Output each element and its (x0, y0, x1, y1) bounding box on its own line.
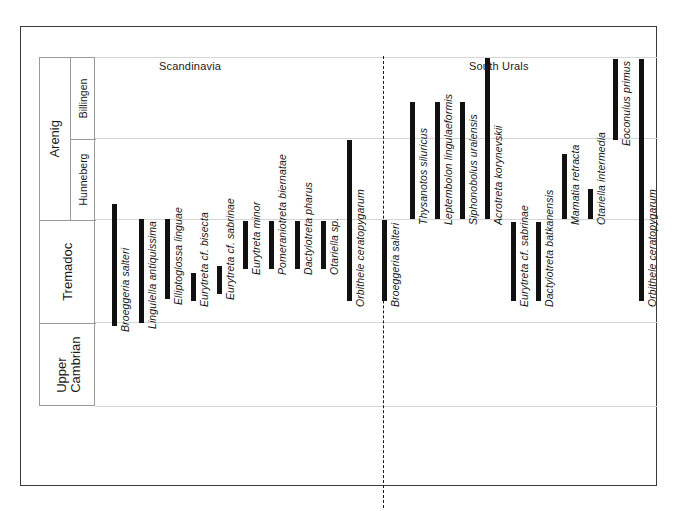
taxon-label-south-urals-1: Thysanotos siluricus (417, 128, 429, 225)
range-bar-south-urals-6 (536, 222, 541, 301)
figure-canvas: ArenigTremadocUpperCambrianBillingenHunn… (0, 0, 677, 511)
taxon-label-south-urals-6: Dactylotreta batkanensis (543, 190, 555, 307)
range-bar-south-urals-2 (435, 102, 440, 219)
range-bar-scandinavia-3 (191, 273, 196, 301)
taxon-label-south-urals-5: Eurytreta cf. sabrinae (518, 205, 530, 307)
gridline-Billingen/Hunneberg (95, 138, 657, 139)
gridline-base-of-Upper-Cambrian (95, 406, 657, 407)
taxon-label-south-urals-0: Broeggeria salteri (389, 223, 401, 307)
strat-stage-billingen: Billingen (70, 58, 96, 139)
taxon-label-scandinavia-9: Orbithele ceratopygarum (354, 189, 366, 307)
range-bar-scandinavia-0 (112, 204, 117, 326)
region-divider (383, 56, 384, 508)
range-bar-scandinavia-7 (295, 221, 300, 269)
strat-series-label: Arenig (48, 120, 62, 158)
range-bar-scandinavia-8 (321, 221, 326, 269)
range-bar-scandinavia-6 (269, 221, 274, 269)
taxon-label-south-urals-3: Siphonobolus uralensis (467, 114, 479, 225)
range-bar-scandinavia-5 (243, 221, 248, 269)
range-bar-south-urals-3 (460, 102, 465, 219)
strat-series-label: UpperCambrian (54, 337, 81, 393)
taxon-label-south-urals-2: Leptembolon lingulaeformis (442, 94, 454, 225)
region-title-south-urals: South Urals (469, 60, 529, 72)
taxon-label-south-urals-4: Acrotreta korynevskii (492, 125, 504, 225)
gridline-Tremadoc/Upper-Cambrian (95, 322, 657, 323)
range-bar-scandinavia-2 (165, 219, 170, 299)
strat-stage-label: Billingen (78, 79, 89, 119)
taxon-label-south-urals-9: Eoconulus primus (620, 61, 632, 146)
range-bar-scandinavia-1 (139, 219, 144, 323)
taxon-label-scandinavia-4: Eurytreta cf. sabrinae (224, 198, 236, 300)
taxon-label-scandinavia-2: Elliptoglossa linguae (172, 207, 184, 305)
range-bar-scandinavia-9 (347, 140, 352, 301)
range-bar-south-urals-7 (562, 154, 567, 219)
range-bar-south-urals-9 (613, 59, 618, 140)
region-title-scandinavia: Scandinavia (159, 60, 221, 72)
taxon-label-scandinavia-5: Eurytreta minor (250, 202, 262, 275)
range-bar-south-urals-8 (588, 189, 593, 219)
taxon-label-south-urals-8: Otariella intermedia (595, 132, 607, 225)
strat-series-arenig: Arenig (40, 58, 70, 220)
taxon-label-scandinavia-1: Lingulella antiquissima (146, 221, 158, 329)
taxon-label-scandinavia-8: Otariella sp. (328, 218, 340, 275)
taxon-label-south-urals-7: Mamatia retracta (569, 145, 581, 225)
strat-stage-label: Hunneberg (78, 154, 89, 206)
gridline-top-of-Billingen (95, 57, 657, 58)
range-bar-scandinavia-4 (217, 266, 222, 294)
range-bar-south-urals-5 (511, 222, 516, 301)
taxon-label-scandinavia-3: Eurytreta cf. bisecta (198, 212, 210, 307)
figure-frame: ArenigTremadocUpperCambrianBillingenHunn… (20, 26, 657, 486)
range-bar-south-urals-1 (410, 102, 415, 219)
range-bar-south-urals-10 (639, 59, 644, 301)
strat-series-upper-cambrian: UpperCambrian (40, 323, 96, 407)
strat-stage-hunneberg: Hunneberg (70, 139, 96, 220)
stratigraphic-column: ArenigTremadocUpperCambrianBillingenHunn… (39, 57, 95, 406)
taxon-label-scandinavia-6: Pomeraniotreta biernatae (276, 154, 288, 275)
taxon-label-scandinavia-0: Broeggeria salteri (119, 248, 131, 332)
strat-series-tremadoc: Tremadoc (40, 220, 96, 323)
strat-series-label: Tremadoc (61, 242, 75, 300)
range-bar-south-urals-4 (485, 58, 490, 219)
taxon-label-scandinavia-7: Dactylotreta pharus (302, 182, 314, 275)
taxon-label-south-urals-10: Orbithele ceratopygarum (646, 189, 658, 307)
